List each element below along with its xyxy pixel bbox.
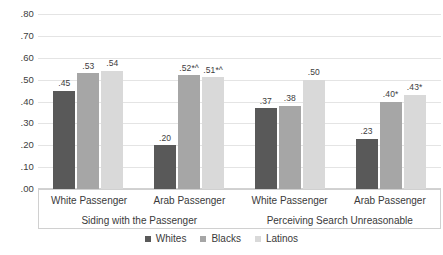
bar: [303, 80, 325, 189]
bar-value-label: .23: [361, 127, 373, 136]
bar-slot: .20: [154, 14, 176, 189]
legend-swatch-icon: [255, 236, 261, 242]
bar: [53, 91, 75, 189]
legend-item: Whites: [145, 234, 187, 244]
category-label: Arab Passenger: [139, 190, 239, 211]
bar-value-label: .54: [106, 59, 118, 68]
bar: [77, 73, 99, 189]
bar-slot: .54: [101, 14, 123, 189]
bar-value-label: .40*: [383, 90, 399, 99]
bar-group-bars: .37.38.50: [240, 14, 341, 189]
legend-label: Whites: [156, 234, 187, 244]
bar-slot: .51*^: [202, 14, 224, 189]
bar-slot: .45: [53, 14, 75, 189]
legend-item: Latinos: [255, 234, 298, 244]
bar-value-label: .51*^: [203, 66, 223, 75]
bar: [202, 77, 224, 189]
legend-label: Latinos: [266, 234, 298, 244]
bar-value-label: .20: [159, 134, 171, 143]
super-category-labels-row: Siding with the PassengerPerceiving Sear…: [39, 211, 440, 230]
bar: [154, 145, 176, 189]
grouped-bar-chart: .80.70.60.50.40.30.20.10.00 .45.53.54.20…: [0, 0, 443, 255]
plot-area: .45.53.54.20.52*^.51*^.37.38.50.23.40*.4…: [38, 14, 441, 189]
chart-legend: WhitesBlacksLatinos: [0, 231, 443, 247]
legend-swatch-icon: [145, 236, 151, 242]
bar-slot: .43*: [404, 14, 426, 189]
y-axis-tick-label: .40: [20, 97, 34, 107]
bar-slot: .50: [303, 14, 325, 189]
bar-value-label: .50: [308, 68, 320, 77]
category-label: Arab Passenger: [340, 190, 440, 211]
bar: [404, 95, 426, 189]
legend-swatch-icon: [200, 236, 206, 242]
y-axis-tick-label: .80: [20, 9, 34, 19]
bar: [101, 71, 123, 189]
y-axis-tick-label: .30: [20, 119, 34, 129]
category-label-box: White PassengerArab PassengerWhite Passe…: [38, 189, 441, 229]
bar: [380, 102, 402, 190]
category-label: White Passenger: [39, 190, 139, 211]
bar-group: .45.53.54: [38, 14, 139, 189]
bar-value-label: .45: [58, 79, 70, 88]
y-axis-tick-label: .50: [20, 75, 34, 85]
y-axis-tick-label: .20: [20, 141, 34, 151]
bar: [178, 75, 200, 189]
bar: [356, 139, 378, 189]
category-label: White Passenger: [240, 190, 340, 211]
bar-value-label: .53: [82, 62, 94, 71]
bar-group: .37.38.50: [240, 14, 341, 189]
y-axis-tick-label: .10: [20, 162, 34, 172]
y-axis-tick-label: .00: [20, 184, 34, 194]
bar-slot: .52*^: [178, 14, 200, 189]
plot-wrapper: .80.70.60.50.40.30.20.10.00 .45.53.54.20…: [0, 14, 443, 189]
super-category-label: Siding with the Passenger: [39, 211, 240, 230]
bar-value-label: .52*^: [179, 64, 199, 73]
category-labels-row: White PassengerArab PassengerWhite Passe…: [39, 190, 440, 211]
super-category-label: Perceiving Search Unreasonable: [240, 211, 441, 230]
bar-group-bars: .45.53.54: [38, 14, 139, 189]
y-axis-tick-label: .70: [20, 31, 34, 41]
bar-value-label: .43*: [407, 83, 423, 92]
legend-label: Blacks: [211, 234, 240, 244]
y-axis: .80.70.60.50.40.30.20.10.00: [0, 14, 38, 189]
bar-group: .23.40*.43*: [340, 14, 441, 189]
bar-group: .20.52*^.51*^: [139, 14, 240, 189]
bar: [255, 108, 277, 189]
bar-slot: .37: [255, 14, 277, 189]
bar-group-bars: .23.40*.43*: [340, 14, 441, 189]
bar-group-bars: .20.52*^.51*^: [139, 14, 240, 189]
bar: [279, 106, 301, 189]
bar-value-label: .38: [284, 94, 296, 103]
bar-slot: .53: [77, 14, 99, 189]
bar-slot: .40*: [380, 14, 402, 189]
bar-groups: .45.53.54.20.52*^.51*^.37.38.50.23.40*.4…: [38, 14, 441, 189]
legend-item: Blacks: [200, 234, 240, 244]
bar-slot: .38: [279, 14, 301, 189]
bar-slot: .23: [356, 14, 378, 189]
y-axis-tick-label: .60: [20, 53, 34, 63]
bar-value-label: .37: [260, 97, 272, 106]
